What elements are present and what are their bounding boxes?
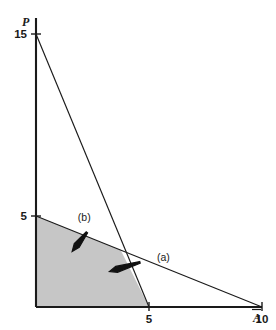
x-tick-label-5: 5 bbox=[146, 313, 153, 325]
y-axis-label: P bbox=[22, 15, 30, 29]
y-tick-label-5: 5 bbox=[21, 210, 28, 222]
annotation-label-b: (b) bbox=[78, 211, 91, 223]
feasible-region-shading bbox=[36, 216, 149, 307]
chart-container: P A (a) (b) 515510 bbox=[0, 0, 276, 330]
y-tick-label-15: 15 bbox=[14, 28, 27, 40]
linear-programming-plot: P A (a) (b) 515510 bbox=[0, 0, 276, 330]
x-tick-label-10: 10 bbox=[256, 313, 269, 325]
annotation-label-a: (a) bbox=[157, 251, 170, 263]
